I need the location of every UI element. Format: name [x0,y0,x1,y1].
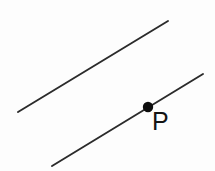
point-p-label: P [152,109,169,134]
lower-parallel-line [52,74,203,166]
geometry-figure: P [0,0,215,171]
diagram-canvas [0,0,215,171]
upper-parallel-line [18,21,168,112]
